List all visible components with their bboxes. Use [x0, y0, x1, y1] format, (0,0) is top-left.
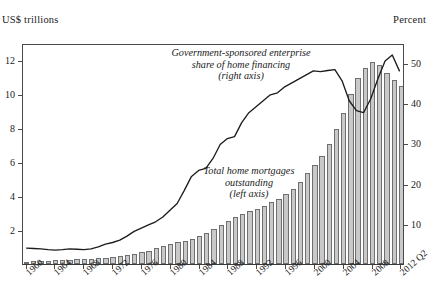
right-axis-tick-label: 50 [411, 58, 429, 69]
right-axis-tick [404, 225, 408, 226]
annotation-mortgages-line3: (left axis) [186, 188, 312, 200]
left-axis-caption: US$ trillions [2, 14, 59, 25]
left-axis-tick [18, 61, 22, 62]
annotation-total-mortgages: Total home mortgages outstanding (left a… [186, 165, 312, 200]
cropped-title-fragment [0, 0, 429, 2]
left-axis-tick-label: 6 [0, 157, 15, 168]
annotation-gse-line3: (right axis) [146, 70, 336, 82]
left-axis-tick-label: 10 [0, 89, 15, 100]
left-axis-tick-label: 4 [0, 191, 15, 202]
chart-figure: US$ trillions Percent Government-sponsor… [0, 0, 429, 300]
left-axis-tick [18, 95, 22, 96]
left-axis-tick-label: 8 [0, 123, 15, 134]
annotation-gse-share: Government-sponsored enterprise share of… [146, 47, 336, 82]
left-axis-tick-label: 12 [0, 55, 15, 66]
right-axis-tick-label: 40 [411, 98, 429, 109]
left-axis-tick-label: 2 [0, 225, 15, 236]
annotation-gse-line1: Government-sponsored enterprise [146, 47, 336, 59]
annotation-mortgages-line2: outstanding [186, 177, 312, 189]
right-axis-tick-label: 20 [411, 179, 429, 190]
annotation-gse-line2: share of home financing [146, 59, 336, 71]
right-axis-tick [404, 64, 408, 65]
left-axis-tick [18, 163, 22, 164]
annotation-mortgages-line1: Total home mortgages [186, 165, 312, 177]
right-axis-tick [404, 104, 408, 105]
left-axis-tick [18, 129, 22, 130]
right-axis-tick [404, 185, 408, 186]
right-axis-caption: Percent [393, 14, 426, 25]
right-axis-tick-label: 30 [411, 138, 429, 149]
left-axis-tick [18, 197, 22, 198]
right-axis-tick [404, 144, 408, 145]
right-axis-tick-label: 10 [411, 219, 429, 230]
left-axis-tick [18, 231, 22, 232]
